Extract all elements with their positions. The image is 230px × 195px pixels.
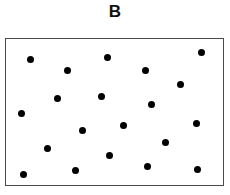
data-point — [142, 67, 150, 75]
data-point — [104, 54, 112, 62]
data-point — [193, 120, 201, 128]
data-point — [72, 167, 80, 175]
data-point — [64, 67, 72, 75]
data-point — [44, 145, 52, 153]
scatter-plot-area — [5, 38, 224, 186]
data-point — [20, 171, 28, 179]
data-point — [106, 152, 114, 160]
data-point — [27, 56, 35, 64]
data-point — [177, 81, 185, 89]
data-point — [98, 93, 106, 101]
data-point — [144, 163, 152, 171]
data-point — [120, 122, 128, 130]
data-point — [79, 127, 87, 135]
data-point — [198, 49, 206, 57]
data-point — [18, 110, 26, 118]
page-title: B — [0, 0, 230, 24]
data-point — [148, 101, 156, 109]
data-point — [194, 166, 202, 174]
figure-panel-b: B — [0, 0, 230, 195]
data-point — [54, 95, 62, 103]
data-point — [162, 139, 170, 147]
